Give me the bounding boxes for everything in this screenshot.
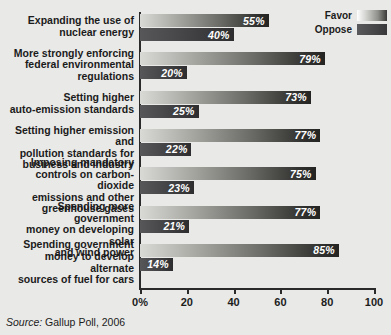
bar-value-label: 77% (295, 206, 317, 218)
axis-tick (140, 288, 142, 294)
bar-favor[interactable]: 77% (140, 129, 320, 142)
category-axis-line (139, 288, 375, 290)
axis-tick-label: 40 (227, 296, 239, 308)
axis-tick-label: 80 (321, 296, 333, 308)
bar-value-label: 75% (290, 168, 312, 180)
bar-row: 73% (0, 91, 391, 104)
bar-oppose[interactable]: 22% (140, 143, 191, 156)
axis-tick (327, 288, 329, 294)
bar-value-label: 23% (168, 182, 190, 194)
bar-favor[interactable]: 75% (140, 167, 316, 180)
legend-swatch-oppose-icon (357, 24, 387, 35)
bar-row: 85% (0, 244, 391, 257)
bar-group: 85%14% (0, 244, 391, 272)
bar-value-label: 25% (173, 105, 195, 117)
bar-value-label: 73% (285, 91, 307, 103)
bar-value-label: 79% (299, 53, 321, 65)
bar-oppose[interactable]: 23% (140, 181, 194, 194)
bar-value-label: 14% (147, 258, 169, 270)
legend-swatch-favor-icon (357, 10, 387, 21)
bar-favor[interactable]: 85% (140, 244, 339, 257)
bar-group: 73%25% (0, 91, 391, 119)
source-text: Gallup Poll, 2006 (45, 316, 125, 328)
chart-legend: Favor Oppose (315, 10, 387, 35)
bar-row: 20% (0, 66, 391, 79)
bar-oppose[interactable]: 40% (140, 28, 234, 41)
bar-row: 25% (0, 105, 391, 118)
bar-row: 22% (0, 143, 391, 156)
bar-row: 21% (0, 220, 391, 233)
bar-group: 77%22% (0, 129, 391, 157)
source-note: Source: Gallup Poll, 2006 (6, 316, 125, 328)
bar-value-label: 22% (166, 143, 188, 155)
source-prefix: Source: (6, 316, 42, 328)
bar-value-label: 21% (164, 220, 186, 232)
axis-tick (187, 288, 189, 294)
bar-oppose[interactable]: 25% (140, 105, 199, 118)
bar-row: 77% (0, 206, 391, 219)
bar-favor[interactable]: 77% (140, 206, 320, 219)
axis-tick (234, 288, 236, 294)
axis-tick-label: 0% (132, 296, 148, 308)
bar-row: 77% (0, 129, 391, 142)
bar-group: 75%23% (0, 167, 391, 195)
legend-item-oppose[interactable]: Oppose (315, 24, 387, 35)
bar-oppose[interactable]: 21% (140, 220, 189, 233)
bar-favor[interactable]: 55% (140, 14, 269, 27)
bar-favor[interactable]: 79% (140, 52, 325, 65)
bar-row: 75% (0, 167, 391, 180)
bar-chart: 0%20406080100 Expanding the use of nucle… (0, 0, 391, 335)
bar-value-label: 20% (161, 67, 183, 79)
axis-tick-label: 60 (274, 296, 286, 308)
bar-value-label: 77% (295, 129, 317, 141)
axis-tick-label: 100 (365, 296, 383, 308)
bar-group: 79%20% (0, 52, 391, 80)
legend-label-oppose: Oppose (315, 24, 352, 35)
legend-item-favor[interactable]: Favor (315, 10, 387, 21)
bar-favor[interactable]: 73% (140, 91, 311, 104)
bar-value-label: 55% (243, 15, 265, 27)
bar-row: 14% (0, 258, 391, 271)
bar-row: 79% (0, 52, 391, 65)
axis-tick-label: 20 (181, 296, 193, 308)
bar-value-label: 85% (313, 244, 335, 256)
bar-oppose[interactable]: 20% (140, 66, 187, 79)
bar-oppose[interactable]: 14% (140, 258, 173, 271)
bar-value-label: 40% (208, 29, 230, 41)
legend-label-favor: Favor (325, 10, 352, 21)
bar-row: 23% (0, 181, 391, 194)
axis-tick (374, 288, 376, 294)
bar-group: 77%21% (0, 206, 391, 234)
axis-tick (280, 288, 282, 294)
